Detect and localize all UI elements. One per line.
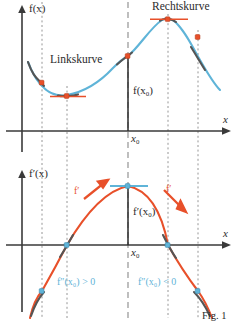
bottom-x-axis-label: x: [223, 228, 228, 239]
point-right-sample: [195, 35, 200, 40]
top-y-axis-label: f(x): [29, 3, 46, 14]
point-fp-right-dot: [195, 289, 200, 294]
figure-container: f(x) x Linkskurve Rechtskurve f(x0) x0 f…: [0, 0, 240, 328]
figure-caption: Fig. 1: [202, 311, 227, 322]
bottom-y-axis-label: f′(x): [29, 168, 48, 179]
right-inequality-label: f″(x₀) < 0: [138, 277, 176, 287]
bottom-y-axis-label-tail: (x): [35, 167, 48, 179]
bottom-x-axis-arrowhead: [222, 241, 231, 249]
bottom-y-axis-arrowhead: [18, 170, 26, 178]
fx0-label: f(x0): [133, 85, 153, 98]
bottom-x0-sub: 0: [136, 252, 139, 259]
point-inflection-x0: [125, 54, 130, 59]
point-minimum: [64, 94, 69, 99]
linkskurve-label: Linkskurve: [50, 54, 102, 66]
top-x-axis-label: x: [223, 114, 228, 125]
arrow-right-label: f′: [166, 185, 171, 195]
top-x0-label: x0: [131, 133, 139, 146]
point-left-sample: [39, 80, 44, 85]
overlay-right: [191, 47, 205, 70]
top-x0-sub: 0: [136, 138, 139, 145]
top-panel: [6, 5, 231, 152]
left-inequality-label: f″(x₀) > 0: [57, 277, 95, 287]
point-maximum: [165, 17, 170, 22]
fx0-label-tail: ): [149, 84, 153, 96]
bottom-x0-label: x0: [131, 247, 139, 260]
point-fp-right-zero: [165, 243, 170, 248]
bottom-panel: [6, 170, 231, 318]
guide-lines: [42, 2, 198, 318]
top-y-axis-arrowhead: [18, 5, 26, 13]
fx0-label-main: f(x: [133, 84, 146, 96]
fpx0-label: f′(x0): [133, 206, 155, 219]
point-fp-left-zero: [64, 243, 69, 248]
point-fp-vertex: [125, 184, 130, 189]
fpx0-label-main: f′(x: [133, 205, 148, 217]
fpx0-label-tail: ): [152, 205, 156, 217]
arrow-right-head: [177, 201, 186, 212]
rechtskurve-label: Rechtskurve: [152, 1, 209, 13]
arrow-left-label: f′: [74, 187, 79, 197]
curve-f-prime: [30, 186, 212, 318]
top-x-axis-arrowhead: [222, 127, 231, 135]
point-fp-left-dot: [39, 289, 44, 294]
figure-svg: [0, 0, 240, 328]
